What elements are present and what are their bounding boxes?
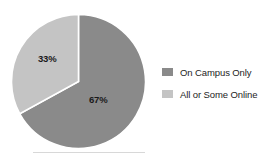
legend-swatch-all-or-some-online xyxy=(162,90,173,98)
pie-chart-svg xyxy=(11,14,146,149)
pie-chart-plot-area xyxy=(11,14,146,149)
pie-slices xyxy=(12,15,146,149)
legend-item-on-campus-only[interactable]: On Campus Only xyxy=(162,61,266,83)
pie-slice-label-all-or-some-online: 33% xyxy=(38,53,56,64)
chart-legend: On Campus Only All or Some Online xyxy=(162,61,266,105)
legend-swatch-on-campus-only xyxy=(162,68,173,76)
pie-slice-label-on-campus-only: 67% xyxy=(89,94,107,105)
pie-chart-figure: 67% 33% On Campus Only All or Some Onlin… xyxy=(0,0,269,161)
legend-item-all-or-some-online[interactable]: All or Some Online xyxy=(162,83,266,105)
legend-label-on-campus-only: On Campus Only xyxy=(180,67,251,78)
legend-label-all-or-some-online: All or Some Online xyxy=(180,89,257,100)
figure-baseline-rule xyxy=(33,152,145,153)
